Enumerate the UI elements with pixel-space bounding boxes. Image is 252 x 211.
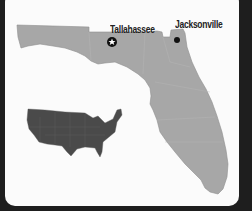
jacksonville-dot-icon — [174, 37, 180, 43]
tallahassee-marker — [107, 37, 117, 47]
us-inset-shape — [27, 109, 122, 157]
map-card: Tallahassee Jacksonville — [5, 0, 239, 206]
tallahassee-label: Tallahassee — [110, 24, 155, 35]
florida-shape — [17, 25, 228, 194]
jacksonville-label: Jacksonville — [175, 19, 223, 30]
